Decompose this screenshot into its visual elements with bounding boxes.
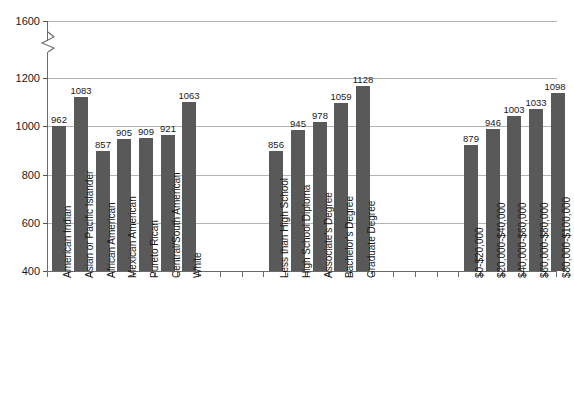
x-axis-category-label: Mexican American: [128, 196, 138, 278]
y-tick-600: [43, 223, 48, 224]
x-tick: [393, 272, 394, 277]
bar-value: 856: [259, 140, 293, 150]
x-axis-category-label: $0-$20,000: [475, 227, 485, 278]
x-axis-category-label: $20,000-$40,000: [497, 202, 507, 278]
x-axis-category-label: $40,000-$60,000: [518, 202, 528, 278]
x-axis-category-label: $80,000-$100,000: [562, 197, 572, 278]
y-axis-label-600: 600: [6, 218, 40, 229]
bar-value: 1098: [538, 82, 572, 92]
y-tick-1200: [43, 78, 48, 79]
y-tick-800: [43, 175, 48, 176]
y-tick-1600: [43, 21, 48, 22]
y-tick-1000: [43, 126, 48, 127]
x-axis-category-label: Pureto Rican: [150, 220, 160, 278]
x-axis-category-label: Central/South American: [172, 172, 182, 278]
axis-break-zigzag: [38, 31, 60, 53]
x-axis-category-label: $60,000-$80,000: [540, 202, 550, 278]
y-axis-label-1200: 1200: [6, 73, 40, 84]
bar-chart: 1600 1200 1000 800 600 400: [0, 0, 574, 409]
x-tick: [415, 272, 416, 277]
bar-value: 1128: [346, 75, 380, 85]
x-axis-category-label: African American: [107, 202, 117, 278]
x-axis-category-label: Bachelor's Degree: [345, 196, 355, 278]
x-axis-category-label: Associate's Degree: [324, 192, 334, 278]
y-axis-label-1600: 1600: [6, 16, 40, 27]
bar-value: 1063: [172, 91, 206, 101]
bar: [182, 102, 196, 271]
x-axis-category-label: Less than High School: [280, 178, 290, 278]
x-tick: [47, 272, 48, 277]
x-tick: [437, 272, 438, 277]
x-tick: [458, 272, 459, 277]
x-axis-category-label: High School Diploma: [302, 185, 312, 278]
bar-value: 1033: [519, 98, 553, 108]
y-axis-lower: [47, 52, 48, 272]
x-tick: [263, 272, 264, 277]
x-axis-category-label: Asian or Pacific Islander: [85, 171, 95, 278]
x-tick: [242, 272, 243, 277]
gridline-1200: [47, 78, 557, 79]
bar-value: 1083: [64, 86, 98, 96]
bar-value: 1059: [324, 92, 358, 102]
bar-value: 978: [303, 111, 337, 121]
plot-area: 1600 1200 1000 800 600 400: [0, 0, 574, 409]
x-axis-category-label: White: [193, 252, 203, 278]
bar-value: 921: [151, 124, 185, 134]
bar-value: 962: [42, 115, 76, 125]
bar-value: 879: [454, 134, 488, 144]
x-tick: [556, 272, 557, 277]
bar-value: 857: [86, 140, 120, 150]
y-axis-label-400: 400: [6, 266, 40, 277]
y-axis-label-800: 800: [6, 170, 40, 181]
x-tick: [220, 272, 221, 277]
bar-value: 946: [476, 118, 510, 128]
gridline-1600: [47, 21, 557, 22]
y-axis-label-1000: 1000: [6, 121, 40, 132]
x-axis-category-label: Graduate Degree: [367, 201, 377, 278]
x-axis-category-label: American Indian: [63, 206, 73, 278]
